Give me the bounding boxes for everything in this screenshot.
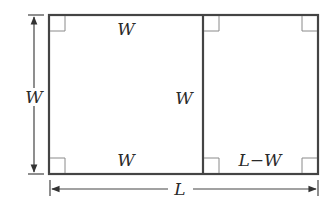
right-angle-mark-top-divider [204, 16, 219, 31]
label-divider: W [175, 88, 194, 108]
right-angle-mark-bottom-left [50, 158, 65, 173]
label-left-dimension: W [25, 87, 44, 107]
label-remainder-bottom: L−W [237, 150, 283, 170]
right-angle-mark-bottom-divider [204, 158, 219, 173]
right-angle-mark-top-right [302, 16, 317, 31]
label-bottom-dimension: L [173, 179, 185, 199]
rectangle-diagram: W W W W L−W L [0, 0, 336, 204]
right-angle-mark-bottom-right [302, 158, 317, 173]
label-square-top: W [117, 19, 136, 39]
right-angle-mark-top-left [50, 16, 65, 31]
label-square-bottom: W [117, 150, 136, 170]
